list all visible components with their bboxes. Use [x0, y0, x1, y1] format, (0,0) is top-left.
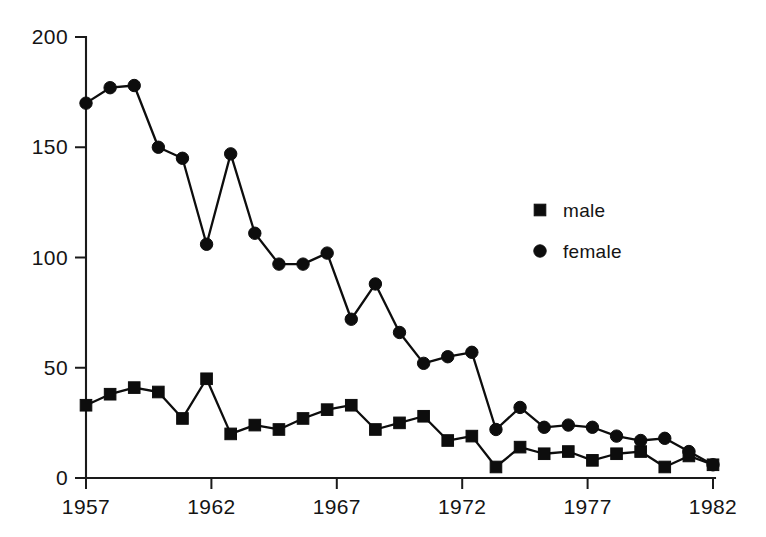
data-point-female	[707, 459, 719, 471]
data-point-female	[562, 419, 574, 431]
data-point-female	[369, 278, 381, 290]
data-point-female	[224, 148, 236, 160]
x-tick-label: 1957	[62, 495, 110, 518]
data-point-male	[466, 430, 478, 442]
chart-legend: malefemale	[534, 200, 622, 262]
data-point-male	[442, 435, 454, 447]
data-point-female	[80, 97, 92, 109]
data-point-male	[538, 448, 550, 460]
y-tick-label: 0	[56, 466, 68, 489]
data-point-male	[128, 382, 140, 394]
chart-svg: 195719621967197219771982 050100150200 ma…	[0, 0, 766, 537]
data-point-female	[610, 430, 622, 442]
legend-marker-female	[534, 245, 546, 257]
data-point-female	[176, 152, 188, 164]
data-point-male	[394, 417, 406, 429]
data-point-male	[201, 373, 213, 385]
x-tick-label: 1977	[563, 495, 611, 518]
data-point-male	[490, 461, 502, 473]
data-point-male	[345, 399, 357, 411]
data-point-male	[635, 446, 647, 458]
data-point-male	[273, 424, 285, 436]
data-point-male	[104, 388, 116, 400]
data-point-male	[153, 386, 165, 398]
y-tick-label: 150	[32, 135, 68, 158]
data-point-female	[417, 357, 429, 369]
y-tick-label: 50	[44, 356, 68, 379]
data-point-female	[538, 421, 550, 433]
data-point-female	[128, 79, 140, 91]
data-point-female	[442, 351, 454, 363]
x-tick-label: 1962	[187, 495, 235, 518]
y-tick-label: 100	[32, 246, 68, 269]
chart-series	[80, 79, 719, 472]
data-point-female	[104, 82, 116, 94]
x-tick-label: 1967	[313, 495, 361, 518]
data-point-male	[370, 424, 382, 436]
data-point-female	[345, 313, 357, 325]
data-point-female	[297, 258, 309, 270]
data-point-male	[514, 441, 526, 453]
data-point-male	[611, 448, 623, 460]
data-point-male	[563, 446, 575, 458]
data-point-female	[586, 421, 598, 433]
data-point-male	[297, 413, 309, 425]
data-point-male	[225, 428, 237, 440]
data-point-female	[659, 432, 671, 444]
legend-label-male: male	[563, 200, 605, 221]
data-point-female	[634, 434, 646, 446]
chart-figure: 195719621967197219771982 050100150200 ma…	[0, 0, 766, 537]
data-point-female	[152, 141, 164, 153]
data-point-female	[490, 423, 502, 435]
x-axis-tick-labels: 195719621967197219771982	[62, 495, 737, 518]
legend-marker-male	[534, 204, 546, 216]
data-point-male	[659, 461, 671, 473]
data-point-female	[514, 401, 526, 413]
y-axis-tick-labels: 050100150200	[32, 25, 68, 489]
data-point-male	[321, 404, 333, 416]
data-point-female	[321, 247, 333, 259]
legend-label-female: female	[563, 241, 622, 262]
series-line-female	[86, 86, 713, 465]
data-point-male	[249, 419, 261, 431]
data-point-female	[249, 227, 261, 239]
data-point-female	[393, 326, 405, 338]
data-point-male	[177, 413, 189, 425]
data-point-female	[466, 346, 478, 358]
x-tick-label: 1982	[689, 495, 737, 518]
y-tick-label: 200	[32, 25, 68, 48]
data-point-female	[200, 238, 212, 250]
data-point-female	[683, 445, 695, 457]
x-tick-label: 1972	[438, 495, 486, 518]
data-point-female	[273, 258, 285, 270]
data-point-male	[587, 455, 599, 467]
data-point-male	[80, 399, 92, 411]
data-point-male	[418, 410, 430, 422]
